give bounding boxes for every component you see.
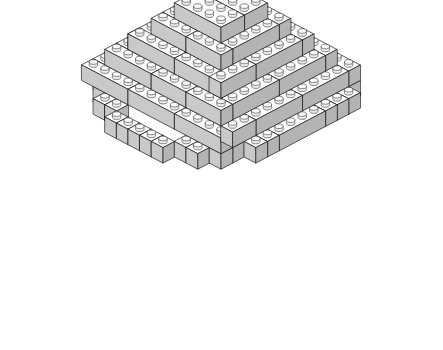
- stud-cap: [136, 124, 144, 129]
- brick-stud: [298, 29, 306, 37]
- stud-cap: [275, 13, 283, 18]
- brick-stud: [217, 44, 225, 52]
- stud-cap: [205, 10, 213, 15]
- stud-cap: [159, 13, 167, 18]
- brick-stud-group: [112, 112, 120, 120]
- brick-stud: [147, 130, 155, 138]
- brick-stud: [217, 16, 225, 24]
- stud-cap: [217, 4, 225, 9]
- stud-cap: [124, 118, 132, 123]
- stud-cap: [217, 99, 225, 104]
- brick-stud-group: [159, 136, 167, 144]
- stud-cap: [217, 71, 225, 76]
- stud-cap: [147, 130, 155, 135]
- brick-stud: [344, 60, 352, 68]
- brick-stud: [159, 136, 167, 144]
- stud-cap: [112, 44, 120, 49]
- brick-stud: [194, 4, 202, 12]
- stud-cap: [159, 136, 167, 141]
- brick-stud-group: [136, 124, 144, 132]
- brick-stud: [217, 71, 225, 79]
- brick-stud: [112, 112, 120, 120]
- brick-stud: [275, 13, 283, 21]
- stud-cap: [321, 44, 329, 49]
- stud-cap: [298, 29, 306, 34]
- brick-stud: [159, 13, 167, 21]
- brick-stud-group: [124, 118, 132, 126]
- brick-stud: [182, 0, 190, 5]
- brick-stud: [321, 44, 329, 52]
- brick-stud: [217, 99, 225, 107]
- brick-stud: [240, 4, 248, 12]
- brick-stud: [252, 0, 260, 5]
- stud-cap: [344, 60, 352, 65]
- brick-stud: [112, 44, 120, 52]
- brick-stud: [205, 10, 213, 18]
- lego-dome-illustration: [0, 0, 443, 350]
- illustration-canvas: [0, 0, 443, 350]
- brick-stud: [136, 29, 144, 37]
- brick-stud: [205, 0, 213, 5]
- brick-stud: [89, 60, 97, 68]
- stud-cap: [217, 44, 225, 49]
- brick-stud-group: [147, 130, 155, 138]
- brick-stud: [217, 4, 225, 12]
- stud-cap: [112, 112, 120, 117]
- brick-stud: [124, 118, 132, 126]
- stud-cap: [228, 10, 236, 15]
- stud-cap: [194, 4, 202, 9]
- brick-stud: [228, 10, 236, 18]
- stud-cap: [217, 16, 225, 21]
- brick-stud: [228, 0, 236, 5]
- stud-cap: [240, 4, 248, 9]
- stud-cap: [136, 29, 144, 34]
- brick-stud: [136, 124, 144, 132]
- stud-cap: [89, 60, 97, 65]
